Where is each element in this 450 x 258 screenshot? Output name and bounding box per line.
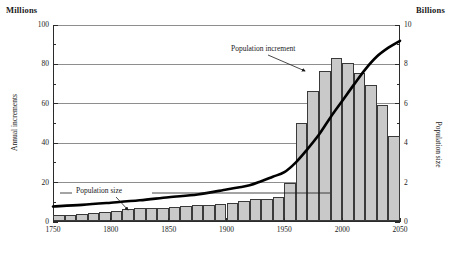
population-size-curve xyxy=(53,41,400,207)
tick-label: 6 xyxy=(404,99,408,108)
x-tick-label: 1750 xyxy=(46,225,61,234)
x-tick-label: 1900 xyxy=(219,225,234,234)
x-tick xyxy=(168,218,169,222)
x-tick xyxy=(53,218,54,222)
left-axis-title: Annual increments xyxy=(10,78,19,168)
tick-label: 2 xyxy=(404,178,408,187)
x-tick-label: 1850 xyxy=(161,225,176,234)
x-tick xyxy=(110,218,111,222)
x-tick-label: 2000 xyxy=(335,225,350,234)
annotation-population-increment: Population increment xyxy=(231,44,295,53)
population-chart: Millions Billions Annual increments Popu… xyxy=(0,0,450,258)
tick-label: 10 xyxy=(404,20,412,29)
x-tick xyxy=(284,218,285,222)
tick-label: 80 xyxy=(42,59,50,68)
left-axis-unit-header: Millions xyxy=(6,5,37,15)
tick-label: 8 xyxy=(404,59,408,68)
tick-label: 60 xyxy=(42,99,50,108)
tick-label: 40 xyxy=(42,138,50,147)
tick-label: 4 xyxy=(404,138,408,147)
annotation-population-size: Population size xyxy=(76,186,122,195)
x-tick xyxy=(342,218,343,222)
x-tick xyxy=(226,218,227,222)
x-tick-label: 1950 xyxy=(277,225,292,234)
x-tick xyxy=(400,218,401,222)
tick-label: 20 xyxy=(42,178,50,187)
tick-label: 100 xyxy=(38,20,49,29)
x-tick-label: 2050 xyxy=(393,225,408,234)
x-tick-label: 1800 xyxy=(103,225,118,234)
right-axis-unit-header: Billions xyxy=(416,5,445,15)
right-axis-title: Population size xyxy=(434,100,443,190)
